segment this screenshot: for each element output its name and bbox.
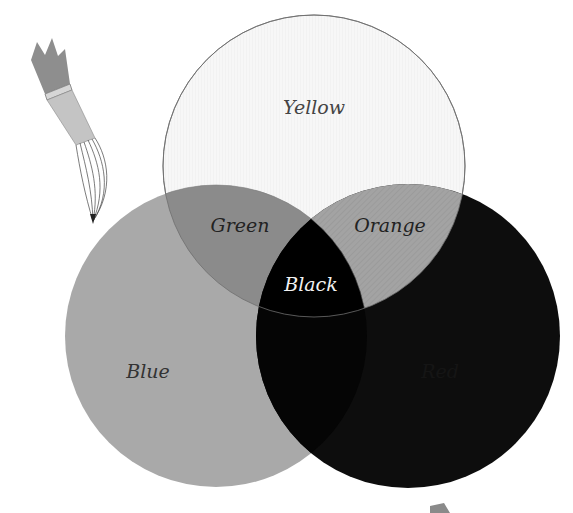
label-green: Green xyxy=(211,214,270,236)
label-blue: Blue xyxy=(125,360,170,382)
venn-diagram: Yellow Green Orange Black Blue Red xyxy=(0,0,573,513)
label-orange: Orange xyxy=(354,214,426,236)
label-red: Red xyxy=(420,360,459,382)
label-black: Black xyxy=(283,273,338,295)
triangle-marker xyxy=(430,503,450,513)
label-yellow: Yellow xyxy=(283,96,345,118)
paintbrush-icon xyxy=(31,38,107,224)
